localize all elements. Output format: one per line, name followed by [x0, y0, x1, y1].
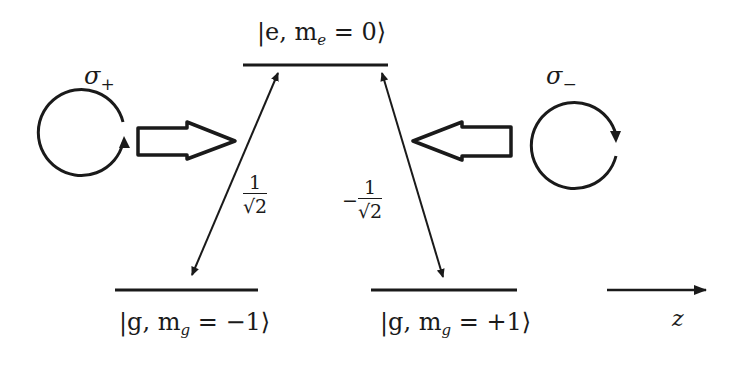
sigma-plus-circular-polarization-icon: [38, 89, 130, 175]
sigma-minus-label: σ−: [546, 62, 577, 94]
sigma-minus-circular-polarization-icon: [531, 103, 621, 189]
right-transition-arrow: [382, 73, 443, 277]
excited-state-label: |e, me = 0⟩: [257, 18, 386, 49]
left-coupling-coefficient: 1√2: [243, 172, 267, 218]
z-axis-label: z: [672, 306, 684, 331]
right-coupling-coefficient: −1√2: [342, 177, 382, 223]
ground-right-state-label: |g, mg = +1⟩: [380, 308, 531, 339]
beam-arrow-left-icon: [413, 122, 511, 160]
sigma-plus-label: σ+: [84, 62, 115, 94]
ground-left-state-label: |g, mg = −1⟩: [119, 308, 270, 339]
beam-arrow-right-icon: [138, 122, 235, 159]
